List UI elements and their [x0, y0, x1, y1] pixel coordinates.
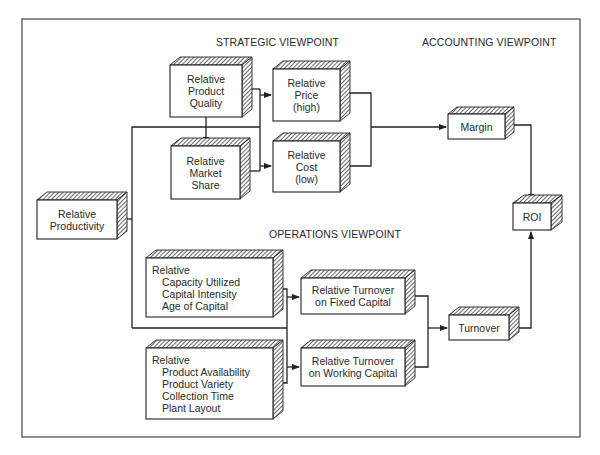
- node-product-factors: RelativeProduct AvailabilityProduct Vari…: [146, 340, 283, 419]
- box-top-face: [273, 61, 350, 69]
- box-side-face: [273, 250, 283, 317]
- node-label-line: Turnover: [458, 322, 500, 334]
- diagram-canvas: STRATEGIC VIEWPOINT ACCOUNTING VIEWPOINT…: [0, 0, 600, 455]
- node-label-line: Plant Layout: [162, 402, 220, 414]
- box-top-face: [146, 250, 283, 258]
- box-side-face: [242, 57, 252, 117]
- node-turnover-working: Relative Turnoveron Working Capital: [301, 340, 415, 386]
- node-label-line: Share: [191, 179, 219, 191]
- box-top-face: [301, 270, 415, 278]
- node-cost: RelativeCost(low): [273, 133, 350, 192]
- box-side-face: [273, 340, 283, 419]
- node-turnover-fixed: Relative Turnoveron Fixed Capital: [301, 270, 415, 314]
- node-label-line: Relative: [152, 354, 190, 366]
- node-label-line: Relative: [288, 77, 326, 89]
- node-label-line: Collection Time: [162, 390, 234, 402]
- node-label-line: Relative: [58, 208, 96, 220]
- node-turnover: Turnover: [449, 307, 519, 340]
- node-label-line: Productivity: [50, 220, 105, 232]
- box-top-face: [37, 192, 127, 200]
- node-label-line: ROI: [523, 211, 542, 223]
- node-market-share: RelativeMarketShare: [171, 138, 250, 199]
- heading-strategic: STRATEGIC VIEWPOINT: [216, 36, 340, 48]
- box-top-face: [449, 307, 519, 315]
- box-top-face: [301, 340, 415, 348]
- heading-operations: OPERATIONS VIEWPOINT: [269, 228, 401, 240]
- node-productivity: RelativeProductivity: [37, 192, 127, 239]
- box-top-face: [448, 107, 514, 114]
- edge-margin-to-roi: [514, 125, 531, 201]
- box-top-face: [146, 340, 283, 348]
- box-top-face: [273, 133, 350, 141]
- node-product-quality: RelativeProductQuality: [170, 57, 252, 117]
- node-label-line: Age of Capital: [162, 300, 228, 312]
- node-label-line: Relative Turnover: [312, 284, 395, 296]
- node-label-line: Relative Turnover: [312, 355, 395, 367]
- node-label-line: Price: [295, 89, 319, 101]
- box-top-face: [171, 138, 250, 146]
- box-side-face: [240, 138, 250, 199]
- box-side-face: [405, 340, 415, 386]
- box-side-face: [405, 270, 415, 314]
- node-label-line: on Working Capital: [309, 367, 398, 379]
- node-label-line: Relative: [288, 149, 326, 161]
- ops-right-bus: [415, 296, 428, 367]
- node-label-line: Product: [188, 85, 224, 97]
- box-side-face: [340, 133, 350, 192]
- node-label-line: (low): [295, 173, 318, 185]
- node-label-line: (high): [293, 101, 320, 113]
- box-side-face: [340, 61, 350, 121]
- edge-turnover-to-roi: [519, 232, 531, 328]
- node-label-line: Relative: [152, 264, 190, 276]
- node-capacity: RelativeCapacity UtilizedCapital Intensi…: [146, 250, 283, 317]
- node-label-line: Relative: [187, 73, 225, 85]
- node-label-line: Cost: [296, 161, 318, 173]
- box-top-face: [170, 57, 252, 65]
- heading-accounting: ACCOUNTING VIEWPOINT: [422, 36, 557, 48]
- node-label-line: on Fixed Capital: [315, 296, 391, 308]
- box-side-face: [117, 192, 127, 239]
- node-label-line: Product Variety: [162, 378, 234, 390]
- node-label-line: Product Availability: [162, 366, 251, 378]
- price-cost-bus: [350, 93, 371, 166]
- node-roi: ROI: [513, 195, 562, 230]
- node-label-line: Relative: [187, 155, 225, 167]
- node-label-line: Market: [189, 167, 221, 179]
- node-label-line: Margin: [460, 121, 492, 133]
- node-price: RelativePrice(high): [273, 61, 350, 121]
- node-label-line: Capital Intensity: [162, 288, 237, 300]
- node-margin: Margin: [448, 107, 514, 139]
- node-label-line: Quality: [190, 97, 223, 109]
- node-label-line: Capacity Utilized: [162, 276, 240, 288]
- ops-left-bus: [283, 289, 287, 383]
